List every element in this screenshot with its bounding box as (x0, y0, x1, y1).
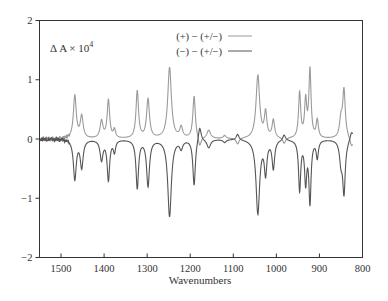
y-tick-label: 1 (27, 74, 32, 85)
x-tick-label: 1100 (223, 263, 244, 274)
x-tick-label: 1400 (94, 263, 115, 274)
y-tick-label: −1 (21, 193, 32, 204)
y-tick-label: −2 (21, 252, 32, 263)
x-tick-label: 1200 (180, 263, 201, 274)
x-tick-label: 800 (355, 263, 371, 274)
y-tick-label: 2 (27, 15, 32, 26)
legend: (+) − (+/−)(−) − (+/−) (176, 31, 252, 58)
x-tick-label: 900 (312, 263, 328, 274)
y-axis-annotation: Δ A × 104 (50, 40, 93, 54)
series-line-1 (40, 66, 353, 145)
y-tick-label: 0 (27, 134, 32, 145)
x-tick-label: 1000 (266, 263, 287, 274)
series-line-2 (40, 128, 353, 216)
x-tick-label: 1500 (51, 263, 72, 274)
x-axis: 150014001300120011001000900800 (51, 254, 371, 274)
y-axis: 210−1−2 (21, 15, 39, 263)
x-axis-label: Wavenumbers (169, 274, 232, 286)
x-tick-label: 1300 (137, 263, 158, 274)
legend-label: (−) − (+/−) (176, 46, 222, 58)
legend-label: (+) − (+/−) (176, 31, 222, 43)
difference-spectrum-chart: 150014001300120011001000900800 210−1−2 W… (0, 0, 388, 301)
series-layer (40, 66, 353, 216)
